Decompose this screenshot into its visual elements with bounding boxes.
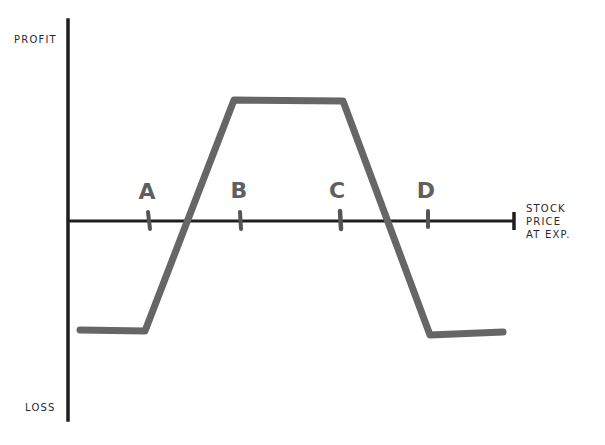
strike-label-b: B <box>231 180 248 202</box>
strike-label-c: C <box>329 180 345 202</box>
loss-label: LOSS <box>25 401 56 415</box>
strike-label-d: D <box>417 180 435 202</box>
strike-tick-b <box>240 212 241 229</box>
x-axis-label: STOCK PRICE AT EXP. <box>526 202 596 241</box>
strike-label-a: A <box>138 181 155 203</box>
profit-label: PROFIT <box>14 33 57 47</box>
strike-tick-a <box>148 212 150 229</box>
payoff-diagram-canvas <box>0 0 605 445</box>
payoff-line <box>80 100 503 335</box>
payoff-diagram: PROFIT LOSS STOCK PRICE AT EXP. A B C D <box>0 0 605 445</box>
strike-tick-c <box>340 211 341 229</box>
